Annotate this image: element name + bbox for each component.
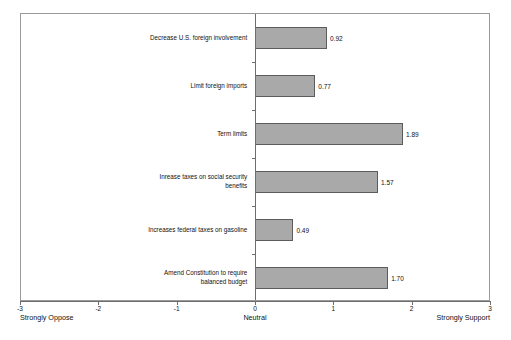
neutral-axis-tick: [252, 110, 255, 111]
bar-category-label: Decrease U.S. foreign involvement: [150, 34, 251, 43]
neutral-axis-line: [255, 14, 256, 300]
neutral-axis-tick: [252, 62, 255, 63]
bar-category-label: Term limits: [217, 130, 251, 139]
bar: [255, 267, 388, 289]
bar-value-label: 1.70: [391, 275, 404, 282]
x-tick-label: 1: [332, 305, 336, 312]
plot-area: Decrease U.S. foreign involvement0.92Lim…: [20, 13, 490, 301]
bar-category-label: Inrease taxes on social security benefit…: [159, 173, 251, 190]
bar: [255, 123, 403, 145]
x-axis-anchor-left: Strongly Oppose: [20, 313, 74, 322]
neutral-axis-tick: [252, 206, 255, 207]
bar: [255, 75, 315, 97]
bar-value-label: 0.92: [330, 35, 343, 42]
bar: [255, 171, 378, 193]
bar-category-label: Limit foreign imports: [191, 82, 252, 91]
x-axis-anchor-right: Strongly Support: [436, 313, 490, 322]
x-tick-label: -1: [174, 305, 180, 312]
bar-category-label: Increases federal taxes on gasoline: [148, 226, 251, 235]
neutral-axis-tick: [252, 158, 255, 159]
x-tick-label: -3: [17, 305, 23, 312]
bar-value-label: 1.57: [381, 179, 394, 186]
bar: [255, 27, 327, 49]
neutral-axis-tick: [252, 254, 255, 255]
x-axis-anchor-middle: Neutral: [243, 313, 266, 322]
bar-value-label: 0.49: [296, 227, 309, 234]
bar-value-label: 1.89: [406, 131, 419, 138]
x-tick-label: -2: [95, 305, 101, 312]
bar: [255, 219, 293, 241]
bar-chart: Decrease U.S. foreign involvement0.92Lim…: [0, 0, 511, 340]
x-tick-label: 0: [253, 305, 257, 312]
x-tick-label: 2: [410, 305, 414, 312]
x-tick-label: 3: [488, 305, 492, 312]
bar-category-label: Amend Constitution to require balanced b…: [164, 269, 251, 286]
bar-value-label: 0.77: [318, 83, 331, 90]
